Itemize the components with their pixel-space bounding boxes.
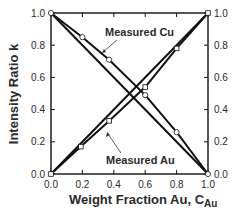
y-tick-label: 0.8	[31, 40, 45, 51]
annotation-measured-cu: Measured Cu	[105, 26, 174, 38]
y-axis-tick-labels: 0.00.20.40.60.81.0	[31, 8, 45, 180]
annotation-arrow-au	[108, 134, 121, 153]
annotation-arrow-cu	[103, 40, 117, 52]
x-tick-label: 0.4	[107, 179, 121, 190]
y-tick-label: 0.2	[31, 136, 45, 147]
x-tick-label: 0.6	[138, 179, 152, 190]
data-point-square	[206, 11, 211, 16]
x-tick-label: 1.0	[201, 179, 215, 190]
y-tick-label: 1.0	[31, 8, 45, 19]
right-y-tick-label: 0.8	[214, 40, 228, 51]
data-point-square	[79, 144, 84, 149]
chart: 0.00.20.40.60.81.0 0.00.20.40.60.81.0 0.…	[0, 0, 238, 219]
data-point-square	[107, 119, 112, 124]
right-y-tick-label: 0.6	[214, 72, 228, 83]
data-point-square	[143, 85, 148, 90]
y-tick-label: 0.0	[31, 169, 45, 180]
x-axis-title: Weight Fraction Au, CAu	[69, 192, 217, 209]
right-y-tick-label: 1.0	[214, 8, 228, 19]
data-point-circle	[80, 35, 85, 40]
x-tick-label: 0.2	[75, 179, 89, 190]
y-tick-label: 0.4	[31, 104, 45, 115]
data-point-circle	[205, 171, 210, 176]
data-point-circle	[106, 57, 111, 62]
right-y-tick-label: 0.0	[214, 169, 228, 180]
right-y-axis-tick-labels: 0.00.20.40.60.81.0	[214, 8, 228, 180]
y-tick-label: 0.6	[31, 72, 45, 83]
x-tick-label: 0.0	[44, 179, 58, 190]
y-axis-title: Intensity Ratio k	[6, 43, 21, 144]
data-point-square	[174, 46, 179, 51]
right-y-tick-label: 0.4	[214, 104, 228, 115]
data-point-circle	[143, 93, 148, 98]
data-point-square	[49, 172, 54, 177]
data-point-circle	[48, 10, 53, 15]
data-point-circle	[174, 130, 179, 135]
right-y-tick-label: 0.2	[214, 136, 228, 147]
x-tick-label: 0.8	[170, 179, 184, 190]
annotation-measured-au: Measured Au	[106, 154, 175, 166]
x-axis-title-main: Weight Fraction Au, C	[69, 192, 205, 207]
x-axis-tick-labels: 0.00.20.40.60.81.0	[44, 179, 215, 190]
x-axis-title-subscript: Au	[204, 198, 217, 209]
